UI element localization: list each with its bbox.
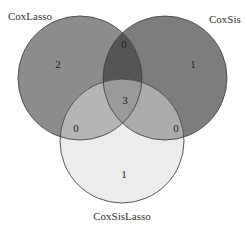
count-only-coxsislasso: 1 (121, 168, 127, 180)
count-lasso-sislasso: 0 (73, 122, 79, 134)
count-lasso-sis: 0 (121, 38, 127, 50)
label-coxsislasso: CoxSisLasso (93, 210, 151, 222)
count-only-coxsis: 1 (190, 58, 196, 70)
venn-diagram: CoxLasso CoxSis CoxSisLasso 2 1 0 3 0 0 … (0, 0, 247, 226)
count-only-coxlasso: 2 (55, 58, 61, 70)
count-all-three: 3 (122, 94, 128, 106)
count-sis-sislasso: 0 (173, 122, 179, 134)
label-coxsis: CoxSis (209, 13, 241, 25)
label-coxlasso: CoxLasso (8, 10, 53, 22)
